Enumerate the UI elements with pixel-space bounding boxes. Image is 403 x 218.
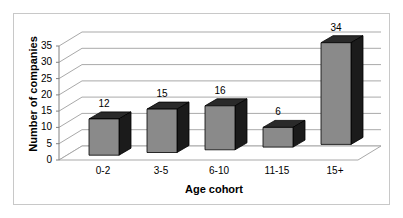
x-tick-label-0: 0-2	[76, 166, 130, 176]
y-tick-label-30: 30	[30, 57, 52, 67]
data-label-3: 6	[260, 107, 296, 117]
x-axis-title: Age cohort	[114, 184, 314, 195]
sidewall-edge-10	[59, 113, 82, 127]
x-tick-label-3: 11-15	[250, 166, 304, 176]
chart-plot-area: Number of companies 35 30 25 20 15 10 5 …	[14, 14, 389, 204]
y-tick-label-0: 0	[30, 155, 52, 165]
y-tick-label-25: 25	[30, 74, 52, 84]
bar-side-face-1	[177, 102, 189, 152]
sidewall-edge-15	[59, 97, 82, 111]
bar-group-3[interactable]	[263, 120, 305, 147]
data-label-1: 15	[144, 89, 180, 99]
sidewall-edge-20	[59, 81, 82, 95]
bar-group-2[interactable]	[205, 99, 247, 150]
bar-side-face-2	[235, 99, 247, 150]
bar-group-1[interactable]	[147, 102, 189, 152]
sidewall-edge-5	[59, 130, 82, 144]
bar-side-face-4	[351, 36, 363, 145]
bar-front-face-4	[321, 43, 351, 145]
bar-front-face-3	[263, 127, 293, 147]
bar-side-face-0	[119, 112, 131, 155]
y-tick-label-15: 15	[30, 106, 52, 116]
side-wall	[59, 32, 82, 160]
x-tick-label-4: 15+	[308, 166, 362, 176]
bar-front-face-2	[205, 106, 235, 150]
y-tick-label-10: 10	[30, 122, 52, 132]
data-label-2: 16	[202, 86, 238, 96]
y-tick-label-20: 20	[30, 90, 52, 100]
bar-front-face-1	[147, 109, 177, 152]
data-label-4: 34	[318, 23, 354, 33]
x-tick-label-1: 3-5	[134, 166, 188, 176]
bar-group-4[interactable]	[321, 36, 363, 145]
bar-group-0[interactable]	[89, 112, 131, 155]
y-tick-label-35: 35	[30, 41, 52, 51]
bar-front-face-0	[89, 119, 119, 155]
x-tick-label-2: 6-10	[192, 166, 246, 176]
sidewall-edge-25	[59, 65, 82, 79]
data-label-0: 12	[86, 99, 122, 109]
sidewall-edge-35	[59, 32, 82, 46]
chart-figure: Number of companies 35 30 25 20 15 10 5 …	[13, 13, 390, 205]
sidewall-edge-30	[59, 48, 82, 62]
y-tick-label-5: 5	[30, 139, 52, 149]
